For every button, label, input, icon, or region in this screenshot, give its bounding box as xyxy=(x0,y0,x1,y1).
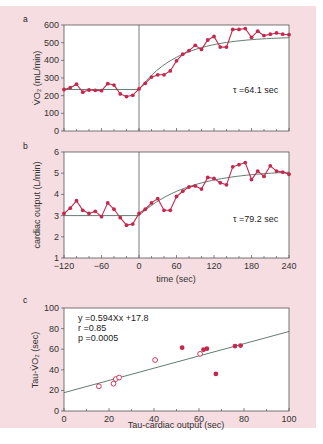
y-tick-label: 4 xyxy=(54,189,59,199)
data-point xyxy=(218,181,222,185)
y-tick-label: 600 xyxy=(44,20,59,30)
data-point xyxy=(143,81,147,85)
data-point xyxy=(156,73,160,77)
panel-c-x-axis-label: Tau-cardiac output (sec) xyxy=(128,420,225,430)
data-point xyxy=(281,170,285,174)
data-point xyxy=(106,201,110,205)
data-point xyxy=(150,75,154,79)
panel-c-y-axis-label: Tau-V̇O₂ (sec) xyxy=(30,332,40,389)
x-tick-label: 240 xyxy=(281,261,296,271)
data-point xyxy=(112,83,116,87)
data-point xyxy=(137,87,141,91)
filled-data-point xyxy=(233,344,238,349)
data-point xyxy=(256,169,260,173)
data-point xyxy=(225,45,229,49)
data-point xyxy=(187,49,191,53)
y-tick-label: 0 xyxy=(54,406,59,416)
open-data-point xyxy=(198,351,203,356)
data-point xyxy=(87,212,91,216)
data-point xyxy=(118,216,122,220)
panel-a-tau-annotation: τ =64.1 sec xyxy=(233,85,279,95)
data-point xyxy=(268,32,272,36)
data-point xyxy=(225,183,229,187)
data-point xyxy=(243,27,247,31)
y-tick-label: 400 xyxy=(44,55,59,65)
y-tick-label: 0 xyxy=(54,126,59,136)
x-tick-label: 60 xyxy=(171,261,181,271)
data-point xyxy=(237,28,241,32)
y-tick-label: 500 xyxy=(44,38,59,48)
panel-a-label: a xyxy=(23,14,28,24)
data-point xyxy=(206,38,210,42)
data-point xyxy=(93,88,97,92)
data-point xyxy=(143,207,147,211)
data-point xyxy=(200,47,204,51)
data-point xyxy=(81,208,85,212)
data-point xyxy=(162,73,166,77)
data-point xyxy=(193,184,197,188)
filled-data-point xyxy=(238,343,243,348)
x-tick-label: 0 xyxy=(61,414,66,424)
open-data-point xyxy=(96,384,101,389)
data-point xyxy=(212,177,216,181)
data-point xyxy=(87,88,91,92)
data-point xyxy=(81,90,85,94)
data-point xyxy=(62,212,66,216)
y-tick-label: 200 xyxy=(44,91,59,101)
y-tick-label: 6 xyxy=(54,147,59,157)
x-tick-label: 100 xyxy=(281,414,296,424)
y-tick-label: 2 xyxy=(54,232,59,242)
data-point xyxy=(156,197,160,201)
open-data-point xyxy=(111,381,116,386)
data-point xyxy=(125,95,129,99)
data-point xyxy=(181,52,185,56)
data-point xyxy=(262,174,266,178)
data-point xyxy=(287,33,291,37)
data-point xyxy=(168,208,172,212)
data-point xyxy=(268,164,272,168)
data-point xyxy=(175,59,179,63)
y-tick-label: 3 xyxy=(54,211,59,221)
data-point xyxy=(131,222,135,226)
data-point xyxy=(118,92,122,96)
panel-c-equation: y =0.594Xx +17.8 xyxy=(78,313,149,323)
data-point xyxy=(250,178,254,182)
data-point xyxy=(200,187,204,191)
data-point xyxy=(75,199,79,203)
x-tick-label: 80 xyxy=(239,414,249,424)
panel-b-tau-annotation: τ =79.2 sec xyxy=(233,214,279,224)
x-tick-label: 180 xyxy=(244,261,259,271)
x-tick-label: 120 xyxy=(206,261,221,271)
data-point xyxy=(287,172,291,176)
data-point xyxy=(93,209,97,213)
data-point xyxy=(193,43,197,47)
x-tick-label: 20 xyxy=(104,414,114,424)
open-data-point xyxy=(153,358,158,363)
panel-b-label: b xyxy=(23,141,28,151)
data-point xyxy=(262,34,266,38)
y-tick-label: 80 xyxy=(49,324,59,334)
panel-b-plot-area xyxy=(64,152,289,258)
data-point xyxy=(106,82,110,86)
data-point xyxy=(243,161,247,165)
y-tick-label: 5 xyxy=(54,168,59,178)
data-point xyxy=(275,31,279,35)
data-point xyxy=(100,89,104,93)
panel-a-plot-area xyxy=(64,25,289,131)
data-point xyxy=(237,163,241,167)
data-point xyxy=(187,185,191,189)
x-tick-label: 0 xyxy=(136,261,141,271)
panel-a-y-axis-label: V̇O₂ (mL/min) xyxy=(32,51,42,106)
data-point xyxy=(75,82,79,86)
y-tick-label: 100 xyxy=(44,303,59,313)
data-point xyxy=(68,206,72,210)
panel-b-y-axis-label: cardiac output (L/min) xyxy=(32,161,42,248)
data-point xyxy=(62,88,66,92)
y-tick-label: 40 xyxy=(49,365,59,375)
open-data-point xyxy=(117,375,122,380)
data-point xyxy=(68,86,72,90)
y-tick-label: 20 xyxy=(49,385,59,395)
data-point xyxy=(162,208,166,212)
filled-data-point xyxy=(204,346,209,351)
filled-data-point xyxy=(180,345,185,350)
